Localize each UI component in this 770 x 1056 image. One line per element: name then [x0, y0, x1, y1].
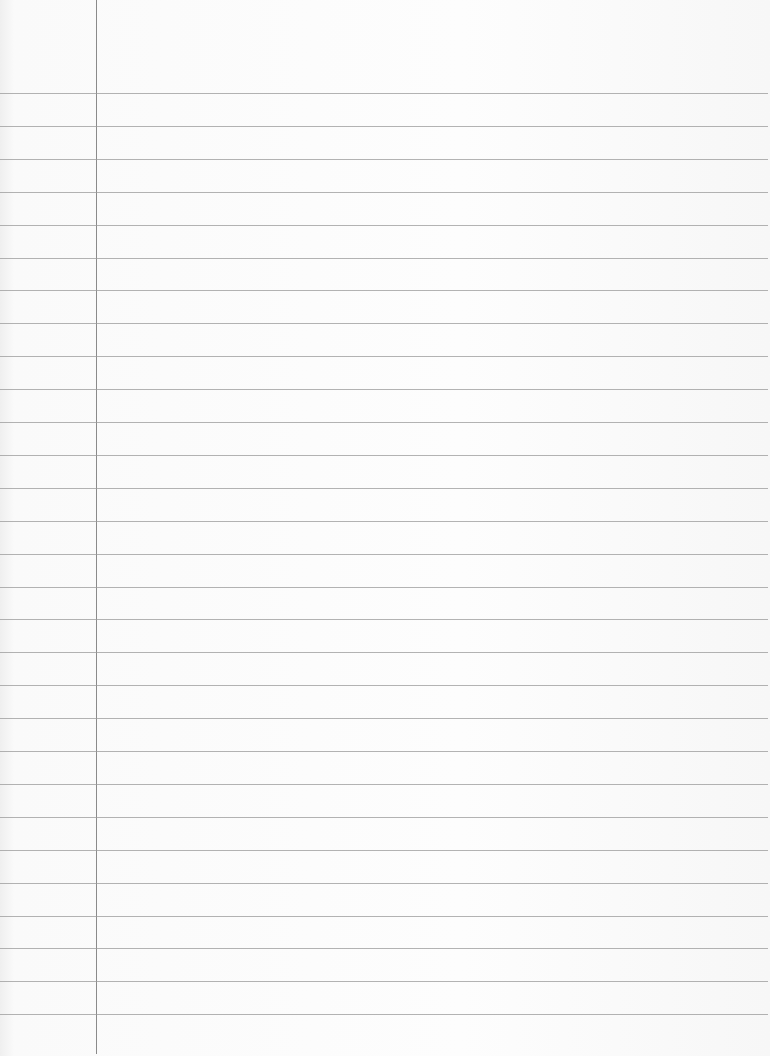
- ruled-line: [0, 554, 768, 555]
- ruled-line: [0, 159, 768, 160]
- ruled-line: [0, 981, 768, 982]
- ruled-line: [0, 323, 768, 324]
- ruled-line: [0, 784, 768, 785]
- ruled-line: [0, 652, 768, 653]
- ruled-line: [0, 93, 768, 94]
- ruled-line: [0, 619, 768, 620]
- ruled-line: [0, 817, 768, 818]
- ruled-line: [0, 290, 768, 291]
- ruled-line: [0, 587, 768, 588]
- ruled-line: [0, 685, 768, 686]
- ruled-line: [0, 126, 768, 127]
- ruled-line: [0, 389, 768, 390]
- ruled-line: [0, 751, 768, 752]
- lined-paper: [0, 0, 770, 1056]
- ruled-line: [0, 718, 768, 719]
- ruled-line: [0, 455, 768, 456]
- ruled-line: [0, 422, 768, 423]
- ruled-line: [0, 192, 768, 193]
- ruled-line: [0, 1014, 768, 1015]
- ruled-line: [0, 225, 768, 226]
- ruled-line: [0, 488, 768, 489]
- ruled-line: [0, 850, 768, 851]
- ruled-line: [0, 521, 768, 522]
- ruled-line: [0, 916, 768, 917]
- ruled-line: [0, 356, 768, 357]
- ruled-line: [0, 948, 768, 949]
- ruled-line: [0, 883, 768, 884]
- ruled-line: [0, 258, 768, 259]
